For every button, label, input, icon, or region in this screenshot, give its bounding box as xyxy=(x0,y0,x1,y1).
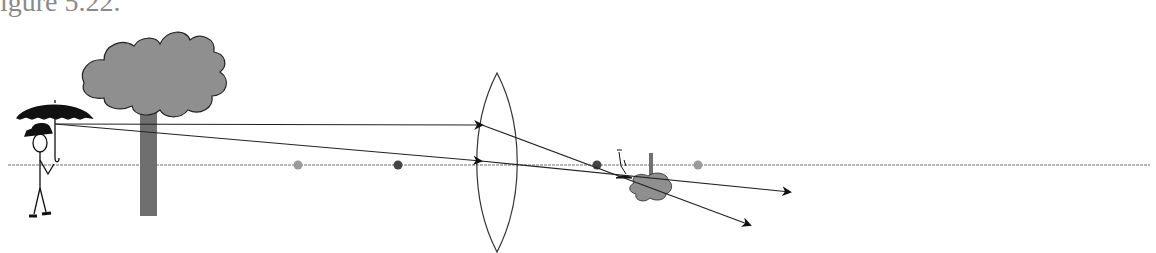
image-tree-canopy xyxy=(630,173,672,201)
hat xyxy=(25,124,52,136)
focal-point-f-left xyxy=(394,161,403,170)
person-object xyxy=(17,100,92,216)
ray-diagram xyxy=(0,0,1156,253)
light-rays xyxy=(55,124,790,225)
umbrella-canopy xyxy=(17,105,92,119)
image-person xyxy=(616,150,632,178)
ray-parallel-incoming xyxy=(55,124,482,125)
focal-point-2f-right xyxy=(694,161,703,170)
focal-point-2f-left xyxy=(294,161,303,170)
head xyxy=(33,134,47,152)
tree-canopy xyxy=(82,32,226,117)
ray-center-incoming xyxy=(55,124,481,161)
